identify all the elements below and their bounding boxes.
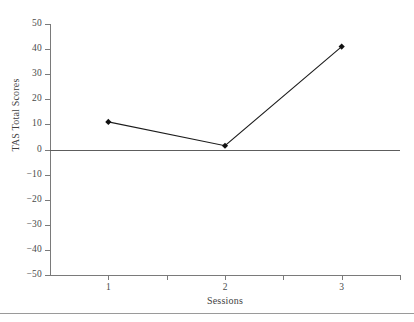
series-layer xyxy=(0,0,414,322)
y-axis-title: TAS Total Scores xyxy=(11,55,21,175)
series-markers xyxy=(105,43,345,148)
chart-figure: 50403020100−10−20−30−40−50 123 TAS Total… xyxy=(0,0,414,322)
x-axis-title: Sessions xyxy=(50,296,400,306)
series-line-tas xyxy=(108,47,341,146)
data-point-marker xyxy=(105,119,111,125)
footer-divider xyxy=(0,313,414,314)
